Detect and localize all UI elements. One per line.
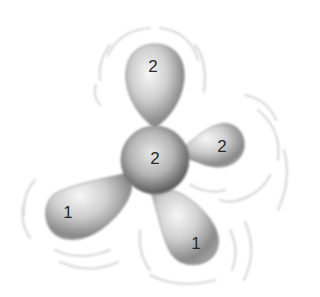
- lobe-label-right: 2: [217, 138, 226, 155]
- lobe-right: [182, 124, 244, 168]
- lobe-bottom-left: [46, 172, 132, 239]
- lobe-label-bottom-right: 1: [191, 235, 200, 252]
- lobe-label-center: 2: [150, 150, 159, 167]
- lobe-label-bottom-left: 1: [63, 204, 72, 221]
- lobe-bottom-right: [150, 189, 219, 265]
- molecule-illustration: [0, 0, 320, 297]
- lobe-label-top: 2: [148, 58, 157, 75]
- molecule-diagram: 2 2 2 1 1: [0, 0, 320, 297]
